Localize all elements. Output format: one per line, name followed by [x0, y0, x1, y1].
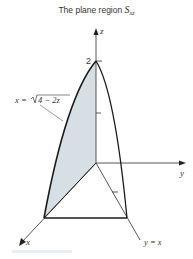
diagram-canvas: z y x 2 x = 4 − 2z y = x	[0, 0, 193, 259]
curve-equation-lhs: x =	[14, 95, 27, 105]
shaded-region-sxz	[44, 61, 96, 218]
curve-y-sqrt	[96, 61, 127, 218]
diagonal-line-label: y = x	[143, 237, 162, 247]
y-axis-label: y	[179, 168, 184, 178]
x-axis-label: x	[25, 237, 30, 247]
line-y-equals-x	[96, 163, 140, 240]
cropped-caption	[12, 250, 72, 253]
z-tick-label-2: 2	[86, 56, 91, 66]
y-axis-arrowhead	[179, 161, 186, 166]
curve-equation-radicand: 4 − 2z	[38, 95, 60, 105]
radical-sign	[31, 95, 37, 103]
z-axis-label: z	[99, 26, 104, 36]
equation-leader-line	[40, 105, 63, 121]
z-axis-arrowhead	[94, 28, 99, 35]
